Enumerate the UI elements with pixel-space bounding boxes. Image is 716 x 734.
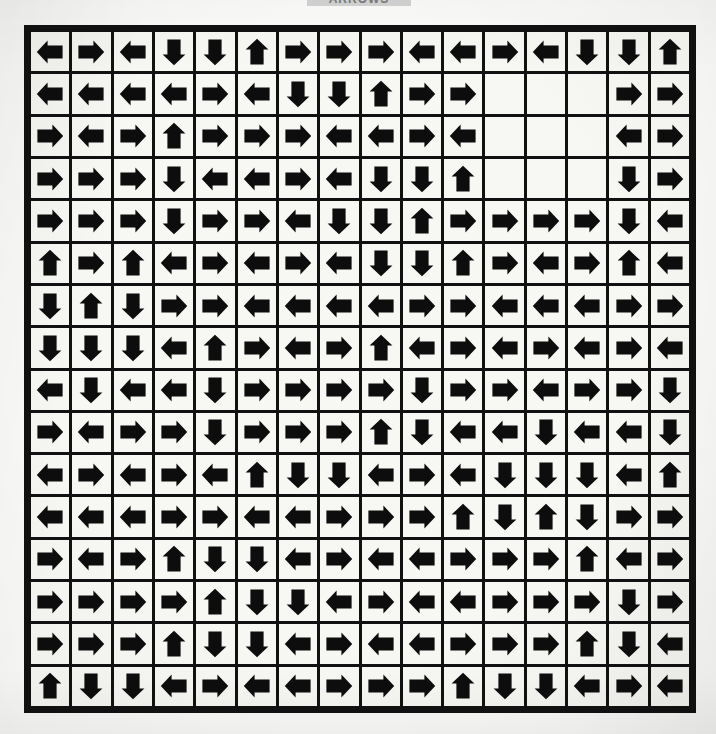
arrow-down-icon <box>35 333 65 363</box>
grid-cell-arrow-right <box>609 74 647 113</box>
grid-cell-arrow-right <box>651 74 689 113</box>
arrow-down-icon <box>76 333 106 363</box>
grid-cell-arrow-up <box>568 624 606 663</box>
grid-cell-arrow-left <box>403 328 441 367</box>
grid-cell-arrow-up <box>527 497 565 536</box>
grid-cell-arrow-left <box>238 74 276 113</box>
grid-cell-arrow-left <box>114 497 152 536</box>
arrow-left-icon <box>35 375 65 405</box>
arrow-right-icon <box>159 291 189 321</box>
grid-cell-arrow-right <box>320 32 358 71</box>
grid-cell-arrow-left <box>403 32 441 71</box>
arrow-right-icon <box>35 164 65 194</box>
grid-cell-arrow-down <box>403 244 441 283</box>
arrow-right-icon <box>655 79 685 109</box>
arrow-right-icon <box>448 544 478 574</box>
grid-cell-arrow-up <box>196 582 234 621</box>
grid-cell-arrow-left <box>279 201 317 240</box>
grid-cell-arrow-right <box>485 201 523 240</box>
arrow-left-icon <box>200 164 230 194</box>
grid-cell-arrow-right <box>651 497 689 536</box>
grid-cell-arrow-down <box>609 159 647 198</box>
grid-cell-arrow-right <box>444 371 482 410</box>
grid-cell-empty <box>527 159 565 198</box>
grid-cell-arrow-down <box>485 497 523 536</box>
arrow-right-icon <box>490 206 520 236</box>
grid-cell-empty <box>485 159 523 198</box>
grid-cell-arrow-right <box>651 582 689 621</box>
arrow-left-icon <box>242 79 272 109</box>
arrow-left-icon <box>283 333 313 363</box>
grid-cell-arrow-right <box>72 244 110 283</box>
arrow-down-icon <box>200 417 230 447</box>
grid-cell-empty <box>568 159 606 198</box>
arrow-left-icon <box>448 121 478 151</box>
grid-cell-arrow-down <box>609 201 647 240</box>
grid-cell-arrow-left <box>114 74 152 113</box>
arrow-grid <box>31 32 689 706</box>
grid-cell-arrow-left <box>651 244 689 283</box>
grid-cell-arrow-left <box>609 117 647 156</box>
grid-cell-arrow-right <box>403 667 441 706</box>
grid-cell-arrow-left <box>320 159 358 198</box>
grid-cell-arrow-left <box>444 455 482 494</box>
arrow-right-icon <box>324 671 354 701</box>
arrow-down-icon <box>200 629 230 659</box>
arrow-up-icon <box>159 629 189 659</box>
grid-cell-arrow-up <box>651 32 689 71</box>
grid-cell-arrow-right <box>196 244 234 283</box>
grid-cell-arrow-left <box>238 497 276 536</box>
arrow-right-icon <box>200 206 230 236</box>
grid-cell-arrow-right <box>114 201 152 240</box>
grid-cell-arrow-right <box>72 32 110 71</box>
arrow-left-icon <box>614 417 644 447</box>
arrow-left-icon <box>572 291 602 321</box>
arrow-up-icon <box>242 37 272 67</box>
grid-cell-arrow-right <box>527 328 565 367</box>
arrow-down-icon <box>242 587 272 617</box>
grid-cell-arrow-left <box>72 117 110 156</box>
grid-cell-arrow-down <box>609 32 647 71</box>
arrow-left-icon <box>531 37 561 67</box>
arrow-left-icon <box>283 206 313 236</box>
arrow-right-icon <box>366 671 396 701</box>
grid-cell-arrow-right <box>485 371 523 410</box>
arrow-down-icon <box>283 587 313 617</box>
arrow-left-icon <box>200 460 230 490</box>
arrow-left-icon <box>76 79 106 109</box>
arrow-right-icon <box>242 417 272 447</box>
grid-cell-arrow-right <box>114 624 152 663</box>
grid-cell-arrow-right <box>651 540 689 579</box>
arrow-right-icon <box>200 671 230 701</box>
grid-cell-arrow-right <box>527 201 565 240</box>
arrow-up-icon <box>448 248 478 278</box>
grid-cell-arrow-down <box>279 455 317 494</box>
grid-cell-arrow-down <box>31 286 69 325</box>
grid-cell-arrow-left <box>279 286 317 325</box>
grid-cell-arrow-right <box>485 582 523 621</box>
arrow-right-icon <box>159 502 189 532</box>
grid-cell-arrow-right <box>568 371 606 410</box>
scanned-page: ARROWS <box>0 0 716 734</box>
grid-cell-arrow-right <box>72 201 110 240</box>
grid-cell-arrow-left <box>72 74 110 113</box>
arrow-left-icon <box>448 460 478 490</box>
grid-cell-arrow-down <box>568 32 606 71</box>
grid-cell-arrow-left <box>196 455 234 494</box>
arrow-up-icon <box>200 333 230 363</box>
arrow-left-icon <box>159 248 189 278</box>
grid-cell-arrow-right <box>31 159 69 198</box>
grid-cell-arrow-right <box>651 117 689 156</box>
arrow-left-icon <box>490 333 520 363</box>
arrow-down-icon <box>407 248 437 278</box>
arrow-right-icon <box>242 375 272 405</box>
arrow-left-icon <box>118 375 148 405</box>
grid-cell-arrow-right <box>362 371 400 410</box>
grid-cell-arrow-left <box>362 117 400 156</box>
arrow-left-icon <box>366 629 396 659</box>
grid-cell-arrow-left <box>651 624 689 663</box>
grid-cell-arrow-left <box>114 455 152 494</box>
grid-cell-arrow-left <box>31 455 69 494</box>
arrow-down-icon <box>200 375 230 405</box>
arrow-up-icon <box>614 248 644 278</box>
